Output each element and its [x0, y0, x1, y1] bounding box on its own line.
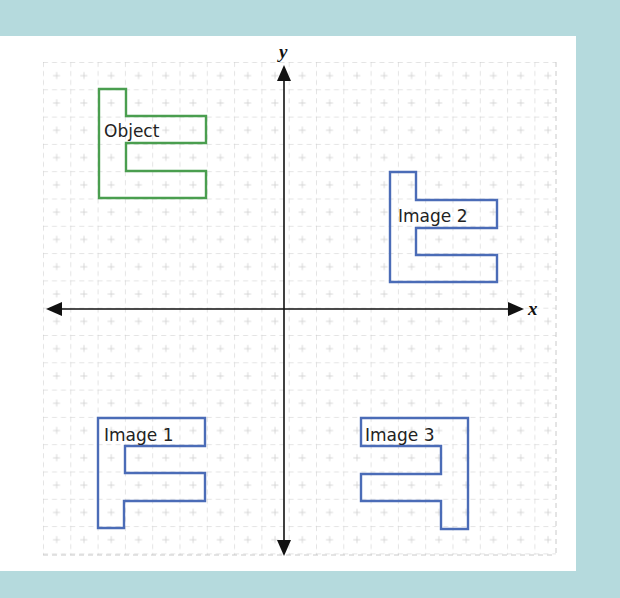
image-3-label: Image 3	[365, 425, 434, 445]
coordinate-plane: x y Object Image 2 Image 1 Image 3	[0, 0, 620, 598]
y-axis-label: y	[277, 41, 288, 62]
object-label: Object	[104, 121, 160, 141]
x-axis-label: x	[527, 298, 538, 319]
image-2-label: Image 2	[398, 206, 467, 226]
image-1-label: Image 1	[104, 425, 173, 445]
